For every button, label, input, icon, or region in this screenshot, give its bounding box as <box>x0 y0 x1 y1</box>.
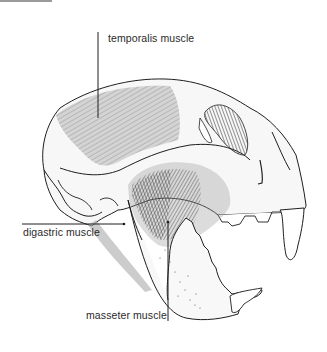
skull-illustration <box>0 0 327 352</box>
label-temporalis-muscle: temporalis muscle <box>108 32 194 44</box>
label-digastric-muscle: digastric muscle <box>23 226 100 238</box>
upper-canine <box>280 208 304 260</box>
label-masseter-muscle: masseter muscle <box>86 309 167 321</box>
lower-canine <box>230 288 262 313</box>
